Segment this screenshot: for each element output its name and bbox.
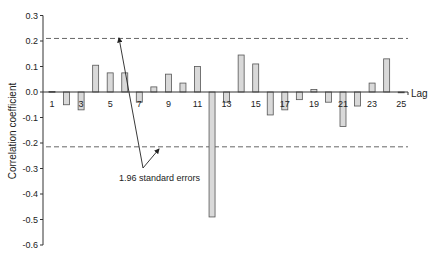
- bar-lag-15: [253, 64, 259, 92]
- x-tick-label: 1: [49, 99, 54, 109]
- y-tick-label: -0.5: [22, 215, 38, 225]
- bars: [49, 55, 404, 217]
- correlogram-chart: 0.30.20.10.0-0.1-0.2-0.3-0.4-0.5-0.6 135…: [0, 0, 435, 259]
- x-tick-label: 3: [79, 99, 84, 109]
- y-tick-label: 0.3: [25, 11, 38, 21]
- bar-lag-20: [325, 92, 331, 102]
- bar-lag-14: [238, 55, 244, 92]
- x-tick-label: 19: [309, 99, 319, 109]
- bar-lag-2: [64, 92, 70, 105]
- bar-lag-22: [355, 92, 361, 106]
- bar-lag-11: [195, 67, 201, 93]
- bar-lag-23: [369, 83, 375, 92]
- y-tick-label: -0.3: [22, 164, 38, 174]
- y-tick-label: 0.1: [25, 62, 38, 72]
- x-tick-label: 5: [108, 99, 113, 109]
- x-tick-label: 15: [251, 99, 261, 109]
- y-axis: 0.30.20.10.0-0.1-0.2-0.3-0.4-0.5-0.6: [22, 11, 43, 251]
- y-tick-label: -0.2: [22, 138, 38, 148]
- x-tick-label: 9: [166, 99, 171, 109]
- x-tick-label: 13: [222, 99, 232, 109]
- bar-lag-12: [209, 92, 215, 217]
- x-axis-title: Lag: [411, 88, 428, 99]
- bar-lag-5: [107, 73, 113, 92]
- bar-lag-10: [180, 83, 186, 92]
- bar-lag-21: [340, 92, 346, 126]
- y-tick-label: -0.6: [22, 240, 38, 250]
- x-tick-label: 21: [338, 99, 348, 109]
- annotation-text: 1.96 standard errors: [119, 173, 201, 183]
- bar-lag-24: [384, 59, 390, 92]
- y-tick-label: -0.1: [22, 113, 38, 123]
- bar-lag-9: [165, 74, 171, 92]
- y-tick-label: 0.0: [25, 87, 38, 97]
- y-tick-label: -0.4: [22, 189, 38, 199]
- y-axis-title: Correlation coefficient: [7, 83, 18, 180]
- y-tick-label: 0.2: [25, 36, 38, 46]
- bar-lag-16: [267, 92, 273, 115]
- x-tick-label: 23: [367, 99, 377, 109]
- bar-lag-18: [296, 92, 302, 100]
- x-tick-label: 17: [280, 99, 290, 109]
- x-tick-label: 11: [193, 99, 202, 109]
- x-tick-label: 25: [396, 99, 406, 109]
- bar-lag-8: [151, 87, 157, 92]
- arrow-lower: [143, 149, 159, 168]
- x-tick-label: 7: [137, 99, 142, 109]
- bar-lag-4: [93, 65, 99, 92]
